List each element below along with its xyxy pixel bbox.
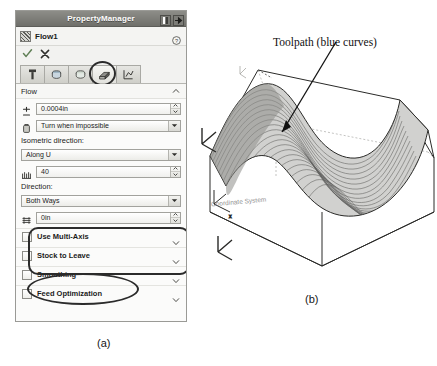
- chevron-down-icon[interactable]: [168, 150, 180, 160]
- chevron-up-icon[interactable]: [172, 87, 180, 96]
- section-label-use-multi-axis: Use Multi-Axis: [37, 232, 89, 241]
- toolpath-leader-arrow: [282, 42, 336, 132]
- section-label-smoothing: Smoothing: [37, 270, 76, 279]
- sidebar-item-tool[interactable]: [20, 65, 45, 83]
- tolerance-stepper[interactable]: [170, 104, 180, 114]
- stepover-value: 40: [41, 168, 49, 175]
- toolpath-annotation-label: Toolpath (blue curves): [273, 36, 377, 48]
- pin-icon[interactable]: [160, 12, 171, 23]
- chevron-down-icon[interactable]: [168, 196, 180, 206]
- panel-body: Flow 0.0004in: [16, 84, 186, 321]
- direction-label: Direction:: [16, 182, 186, 191]
- stepover-stepper[interactable]: [170, 167, 180, 177]
- checkbox-feed-optimization[interactable]: [22, 289, 32, 299]
- isometric-direction-row: Along U: [16, 147, 186, 162]
- section-use-multi-axis[interactable]: Use Multi-Axis: [16, 228, 186, 244]
- section-smoothing[interactable]: Smoothing: [16, 266, 186, 282]
- caption-a: (a): [97, 337, 110, 349]
- section-feed-optimization[interactable]: Feed Optimization: [16, 285, 186, 301]
- sidebar-item-links[interactable]: [116, 65, 141, 83]
- panel-tabs: [16, 62, 186, 84]
- page-title: PropertyManager: [67, 14, 134, 23]
- sidebar-item-stock[interactable]: [44, 65, 69, 83]
- flow-feature-icon: [20, 31, 31, 42]
- svg-text:?: ?: [175, 38, 178, 44]
- coordinate-system-triad-origin: [218, 236, 232, 260]
- section-header-flow[interactable]: Flow: [16, 84, 186, 99]
- tolerance-row: 0.0004in: [16, 101, 186, 116]
- checkbox-stock-to-leave[interactable]: [22, 251, 32, 261]
- stepover-input[interactable]: 40: [36, 166, 181, 178]
- turn-icon: [21, 120, 32, 131]
- caption-b: (b): [305, 293, 318, 305]
- sidebar-item-part[interactable]: [68, 65, 93, 83]
- property-manager-panel: PropertyManager Flow1 ?: [15, 10, 187, 322]
- direction-value: Both Ways: [26, 197, 60, 204]
- checkbox-use-multi-axis[interactable]: [22, 232, 32, 242]
- arrow-right-icon[interactable]: [173, 12, 184, 23]
- turn-mode-select[interactable]: Turn when impossible: [36, 120, 181, 132]
- offset-row: 0in: [16, 210, 186, 225]
- offset-stepper[interactable]: [170, 213, 180, 223]
- panel-titlebar: PropertyManager: [16, 11, 186, 27]
- direction-select[interactable]: Both Ways: [21, 195, 181, 207]
- toolpath-3d-illustration: x: [196, 26, 437, 288]
- feature-name-row: Flow1 ?: [16, 27, 186, 46]
- checkmark-icon[interactable]: [22, 45, 33, 63]
- tolerance-input[interactable]: 0.0004in: [36, 103, 181, 115]
- section-title-flow: Flow: [21, 87, 37, 96]
- titlebar-buttons: [160, 12, 184, 23]
- origin-marker-top: [240, 66, 246, 78]
- feature-name: Flow1: [35, 32, 58, 41]
- offset-input[interactable]: 0in: [36, 212, 181, 224]
- isometric-direction-label: Isometric direction:: [16, 136, 186, 145]
- stepover-row: 40: [16, 164, 186, 179]
- isometric-direction-value: Along U: [26, 151, 51, 158]
- sidebar-item-toolpath[interactable]: [92, 65, 117, 83]
- section-label-feed-optimization: Feed Optimization: [37, 289, 102, 298]
- turn-mode-row: Turn when impossible: [16, 118, 186, 133]
- section-stock-to-leave[interactable]: Stock to Leave: [16, 247, 186, 263]
- offset-icon: [21, 212, 32, 223]
- direction-row: Both Ways: [16, 193, 186, 208]
- turn-mode-value: Turn when impossible: [41, 122, 109, 129]
- section-label-stock-to-leave: Stock to Leave: [37, 251, 90, 260]
- offset-value: 0in: [41, 214, 50, 221]
- confirm-bar: [16, 46, 186, 62]
- chevron-down-icon[interactable]: [168, 121, 180, 131]
- isometric-direction-select[interactable]: Along U: [21, 149, 181, 161]
- toolpath-figure: x: [196, 26, 437, 288]
- tolerance-value: 0.0004in: [41, 105, 68, 112]
- svg-text:x: x: [229, 213, 232, 219]
- help-icon[interactable]: ?: [172, 31, 181, 49]
- stepover-icon: [21, 166, 32, 177]
- chevron-down-icon[interactable]: [172, 289, 180, 307]
- checkbox-smoothing[interactable]: [22, 270, 32, 280]
- tolerance-icon: [21, 103, 32, 114]
- cancel-x-icon[interactable]: [40, 45, 50, 63]
